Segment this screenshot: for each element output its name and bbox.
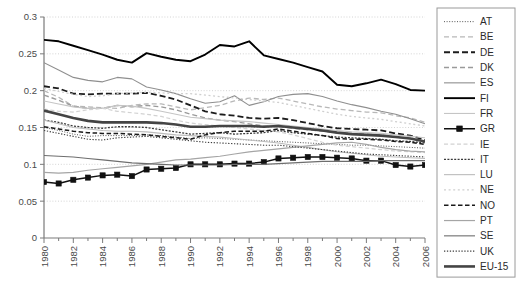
series-marker (364, 158, 369, 163)
series-marker (305, 154, 310, 159)
x-tick-label: 1986 (126, 246, 137, 267)
legend-label: FI (480, 93, 489, 104)
x-tick-label: 1984 (97, 246, 108, 267)
legend-label: AT (480, 16, 492, 27)
series-marker (144, 167, 149, 172)
series-fi (44, 40, 425, 91)
chart-legend: ATBEDEDKESFIFRGRIEITLUNENOPTSEUKEU-15 (437, 8, 515, 277)
legend-label: LU (480, 169, 493, 180)
series-line (44, 101, 425, 138)
x-tick-label: 1992 (214, 246, 225, 267)
y-tick-label: 0.3 (24, 11, 37, 22)
chart-canvas: 0.30.250.20.150.10.050198019821984198619… (0, 0, 521, 287)
series-marker (41, 179, 46, 184)
series-marker (115, 172, 120, 177)
series-marker (349, 156, 354, 161)
series-marker (129, 174, 134, 179)
x-tick-label: 2004 (390, 246, 401, 267)
series-fr (44, 101, 425, 138)
x-tick-label: 2002 (361, 246, 372, 267)
legend-label: DK (480, 62, 494, 73)
legend-label: GR (480, 123, 495, 134)
x-tick-label: 1996 (273, 246, 284, 267)
legend-label: BE (480, 31, 494, 42)
legend-label: FR (480, 108, 493, 119)
series-line (44, 142, 425, 173)
series-marker (232, 161, 237, 166)
series-marker (393, 162, 398, 167)
series-marker (173, 165, 178, 170)
x-tick-label: 1988 (156, 246, 167, 267)
series-marker (85, 175, 90, 180)
x-tick-label: 1990 (185, 246, 196, 267)
series-marker (217, 162, 222, 167)
series-marker (247, 161, 252, 166)
series-marker (334, 155, 339, 160)
series-de (44, 86, 425, 140)
series-marker (188, 162, 193, 167)
legend-swatch-marker (457, 126, 463, 132)
legend-label: NE (480, 184, 494, 195)
series-marker (291, 155, 296, 160)
legend-label: DE (480, 47, 494, 58)
x-tick-label: 2000 (332, 246, 343, 267)
series-marker (203, 162, 208, 167)
y-tick-label: 0.25 (19, 48, 38, 59)
line-chart: 0.30.250.20.150.10.050198019821984198619… (0, 0, 521, 287)
series-marker (71, 177, 76, 182)
y-tick-label: 0.15 (19, 122, 38, 133)
series-marker (320, 154, 325, 159)
series-line (44, 86, 425, 140)
y-tick-label: 0 (32, 232, 37, 243)
x-tick-label: 1994 (244, 246, 255, 267)
y-tick-label: 0.05 (19, 196, 38, 207)
legend-label: PT (480, 215, 493, 226)
legend-border (437, 8, 515, 277)
legend-label: NO (480, 200, 495, 211)
x-tick-label: 1998 (302, 246, 313, 267)
legend-label: IE (480, 139, 490, 150)
x-tick-label: 1982 (68, 246, 79, 267)
y-tick-label: 0.1 (24, 159, 37, 170)
series-marker (276, 156, 281, 161)
legend-label: UK (480, 246, 494, 257)
legend-label: SE (480, 230, 494, 241)
series-marker (408, 164, 413, 169)
series-marker (56, 181, 61, 186)
series-line (44, 40, 425, 91)
series-marker (100, 173, 105, 178)
series-marker (422, 162, 427, 167)
legend-label: ES (480, 77, 494, 88)
series-pt (44, 142, 425, 173)
x-tick-label: 2006 (420, 246, 431, 267)
legend-label: EU-15 (480, 261, 509, 272)
x-tick-label: 1980 (39, 246, 50, 267)
series-marker (159, 166, 164, 171)
y-tick-label: 0.2 (24, 85, 37, 96)
legend-label: IT (480, 154, 489, 165)
